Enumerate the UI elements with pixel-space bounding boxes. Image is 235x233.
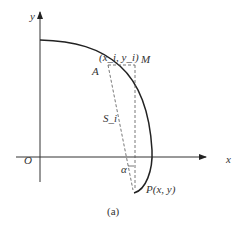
alpha-label: α (121, 163, 127, 175)
diagram-canvas: y x O (x_i, y_i) A M S_i α P(x, y) (a) (0, 0, 235, 233)
point-p-label: P(x, y) (145, 183, 176, 196)
figure-caption: (a) (107, 205, 120, 218)
segment-s-label: S_i (103, 112, 117, 124)
point-a-label: A (91, 65, 99, 77)
y-axis-label: y (29, 10, 35, 22)
origin-label: O (24, 154, 32, 166)
x-axis-label: x (225, 153, 231, 165)
point-m-label: M (140, 53, 151, 65)
point-a-coord-label: (x_i, y_i) (99, 51, 139, 64)
